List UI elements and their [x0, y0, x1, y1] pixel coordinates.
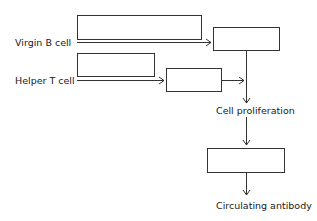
cell-proliferation-label: Cell proliferation — [216, 106, 295, 116]
virgin-b-cell-label: Virgin B cell — [15, 38, 71, 48]
blank-box-1 — [77, 15, 202, 40]
helper-t-cell-label: Helper T cell — [15, 76, 75, 86]
blank-box-2 — [213, 27, 280, 51]
blank-box-4 — [166, 68, 222, 92]
blank-box-5 — [207, 148, 285, 173]
blank-box-3 — [77, 53, 155, 77]
circulating-antibody-label: Circulating antibody — [216, 201, 312, 211]
